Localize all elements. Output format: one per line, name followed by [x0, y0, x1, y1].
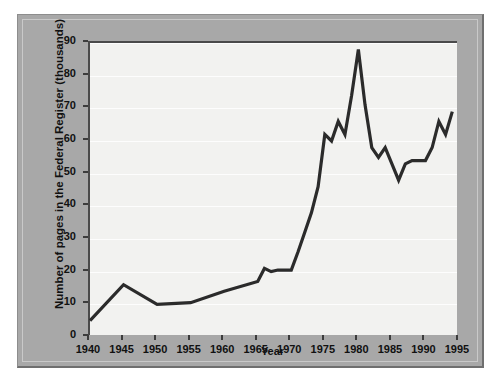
x-axis-title: Year	[88, 345, 457, 357]
x-tick-1940	[87, 335, 89, 340]
series-line-federal-register	[90, 43, 459, 337]
x-tick-1975	[322, 335, 324, 340]
y-tick-20	[83, 269, 88, 271]
x-tick-1990	[422, 335, 424, 340]
x-tick-1960	[221, 335, 223, 340]
y-tick-40	[83, 203, 88, 205]
x-tick-1995	[456, 335, 458, 340]
y-tick-label-30: 30	[36, 231, 76, 242]
y-tick-label-50: 50	[36, 166, 76, 177]
y-tick-70	[83, 105, 88, 107]
y-tick-50	[83, 171, 88, 173]
y-tick-label-90: 90	[36, 35, 76, 46]
y-tick-10	[83, 301, 88, 303]
y-tick-60	[83, 138, 88, 140]
x-tick-1950	[154, 335, 156, 340]
x-tick-1985	[389, 335, 391, 340]
x-tick-1965	[255, 335, 257, 340]
y-tick-label-60: 60	[36, 133, 76, 144]
y-tick-80	[83, 73, 88, 75]
y-tick-90	[83, 40, 88, 42]
y-tick-label-20: 20	[36, 264, 76, 275]
y-tick-label-80: 80	[36, 68, 76, 79]
y-tick-label-40: 40	[36, 198, 76, 209]
y-tick-30	[83, 236, 88, 238]
y-tick-label-0: 0	[36, 329, 76, 340]
y-tick-label-70: 70	[36, 100, 76, 111]
x-tick-1980	[355, 335, 357, 340]
chart-figure: Number of pages in the Federal Register …	[0, 0, 502, 386]
x-tick-1955	[188, 335, 190, 340]
plot-area	[88, 41, 457, 335]
y-tick-label-10: 10	[36, 296, 76, 307]
x-tick-1970	[288, 335, 290, 340]
x-tick-1945	[121, 335, 123, 340]
